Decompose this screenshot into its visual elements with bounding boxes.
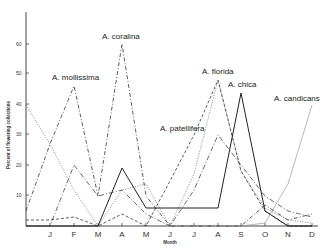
label-patellifera: A. patellifera <box>160 124 205 133</box>
label-candicans: A. candicans <box>274 94 320 103</box>
label-chica: A. chica <box>228 80 257 89</box>
month-may: M <box>143 230 150 239</box>
month-jul: J <box>192 230 196 239</box>
label-coralina: A. coralina <box>102 32 140 41</box>
x-tick-labels: J F M A M J J A S O N D <box>48 230 315 239</box>
month-oct: O <box>262 230 268 239</box>
label-florida: A. florida <box>202 67 234 76</box>
month-jan: J <box>48 230 52 239</box>
series-patellifera <box>26 135 312 226</box>
month-nov: N <box>285 230 291 239</box>
y-tick-50: 50 <box>16 70 22 76</box>
series-florida <box>26 80 312 226</box>
month-sep: S <box>238 230 243 239</box>
series-coralina <box>26 80 312 226</box>
month-apr: A <box>119 230 125 239</box>
month-dec: D <box>309 230 315 239</box>
series-chica <box>26 93 312 226</box>
month-aug: A <box>215 230 221 239</box>
y-tick-40: 40 <box>16 101 22 107</box>
y-ticks: 10 20 30 40 50 60 <box>16 41 29 198</box>
y-tick-10: 10 <box>16 192 22 198</box>
y-tick-30: 30 <box>16 131 22 137</box>
series-lines <box>26 44 312 226</box>
y-tick-20: 20 <box>16 162 22 168</box>
series-mollissima <box>26 44 312 226</box>
series-candicans <box>218 105 312 226</box>
month-mar: M <box>95 230 102 239</box>
month-feb: F <box>72 230 77 239</box>
flowering-chart: 10 20 30 40 50 60 J F M A M J J A S O N … <box>0 0 330 249</box>
x-axis-title: Month <box>163 240 177 245</box>
label-mollissima: A. mollissima <box>52 73 100 82</box>
y-axis-title: Percent of flowering collections <box>6 100 11 169</box>
y-tick-60: 60 <box>16 41 22 47</box>
month-jun: J <box>168 230 172 239</box>
